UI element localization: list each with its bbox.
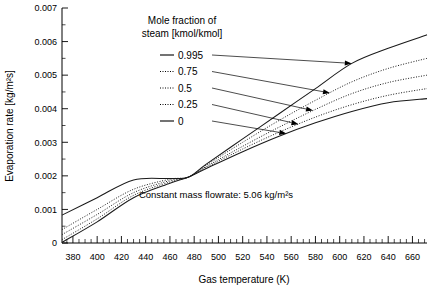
y-tick-label: 0.003: [34, 138, 57, 148]
y-tick-label: 0.006: [34, 37, 57, 47]
legend-title-line1: Mole fraction of: [148, 15, 217, 26]
x-tick-label: 620: [356, 252, 371, 262]
y-axis-title: Evaporation rate [kg/m²s]: [4, 70, 15, 182]
x-tick-label: 500: [211, 252, 226, 262]
x-tick-label: 400: [90, 252, 105, 262]
legend-label-0.75: 0.75: [178, 66, 198, 77]
x-tick-label: 420: [114, 252, 129, 262]
legend-label-0.5: 0.5: [178, 83, 192, 94]
evaporation-rate-line-chart: 00.0010.0020.0030.0040.0050.0060.007 380…: [0, 0, 430, 288]
legend-title-line2: steam [kmol/kmol]: [142, 28, 223, 39]
x-tick-label: 460: [162, 252, 177, 262]
legend-label-0.995: 0.995: [178, 50, 203, 61]
legend-leader-lines: [212, 55, 352, 135]
series-line-0: [62, 99, 427, 243]
series-line-0.75: [62, 58, 427, 229]
x-tick-label: 560: [284, 252, 299, 262]
chart-annotation: Constant mass flowrate: 5.06 kg/m²s: [139, 189, 293, 200]
x-tick-label: 480: [187, 252, 202, 262]
x-axis-ticks: 3804004204404604805005205405605806006206…: [65, 236, 424, 262]
leader-line-0.5: [212, 88, 306, 109]
legend: Mole fraction of steam [kmol/kmol] 0.995…: [142, 15, 223, 127]
leader-line-0: [212, 121, 279, 132]
y-tick-label: 0.007: [34, 3, 57, 13]
series-line-0.5: [62, 75, 427, 234]
legend-entries: 0.9950.750.50.250: [160, 50, 203, 127]
leader-line-0.75: [212, 72, 323, 92]
x-tick-label: 660: [405, 252, 420, 262]
x-tick-label: 440: [138, 252, 153, 262]
x-tick-label: 600: [332, 252, 347, 262]
y-axis-ticks: 00.0010.0020.0030.0040.0050.0060.007: [34, 3, 68, 248]
y-tick-label: 0: [52, 238, 57, 248]
x-axis-title: Gas temperature (K): [198, 274, 289, 285]
x-tick-label: 640: [381, 252, 396, 262]
y-tick-label: 0.004: [34, 104, 57, 114]
legend-label-0: 0: [178, 116, 184, 127]
x-tick-label: 380: [65, 252, 80, 262]
y-tick-label: 0.002: [34, 171, 57, 181]
y-tick-label: 0.001: [34, 205, 57, 215]
leader-arrowhead-0.995: [345, 60, 352, 65]
x-tick-label: 520: [235, 252, 250, 262]
series-line-0.25: [62, 89, 427, 240]
x-tick-label: 540: [259, 252, 274, 262]
chart-container: 00.0010.0020.0030.0040.0050.0060.007 380…: [0, 0, 430, 288]
legend-label-0.25: 0.25: [178, 99, 198, 110]
x-tick-label: 580: [308, 252, 323, 262]
data-series-group: [62, 35, 427, 242]
leader-arrowhead-0.5: [306, 107, 313, 112]
leader-line-0.995: [212, 55, 345, 63]
y-tick-label: 0.005: [34, 70, 57, 80]
